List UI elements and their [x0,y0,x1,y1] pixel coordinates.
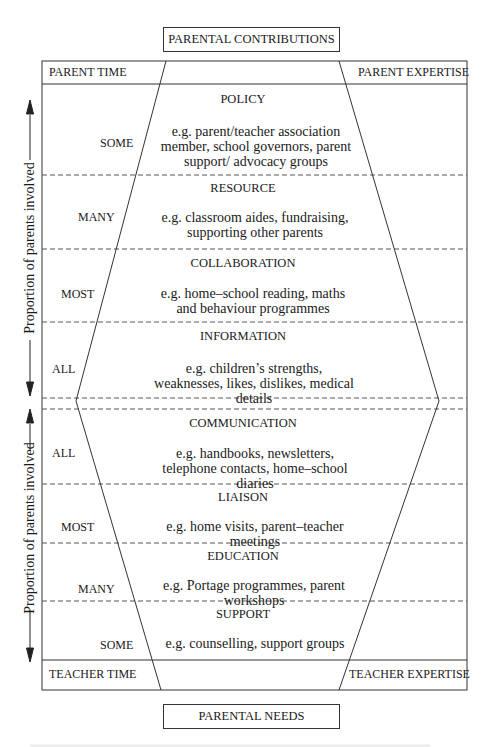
section-example: e.g. counselling, support groups [160,636,350,651]
section-example: e.g. Portage programmes, parent workshop… [134,578,374,608]
level-label: MOST [61,520,94,535]
section-title: POLICY [0,92,486,107]
level-label: SOME [100,136,133,151]
section-example: e.g. home–school reading, maths and beha… [158,286,348,316]
section-title: COMMUNICATION [0,416,486,431]
section-title: RESOURCE [0,181,486,196]
level-label: SOME [100,638,133,653]
section-example: e.g. children’s strengths, weaknesses, l… [151,361,357,406]
teacher-expertise-label: TEACHER EXPERTISE [349,667,470,682]
parent-expertise-label: PARENT EXPERTISE [358,65,469,80]
section-example: e.g. home visits, parent–teacher meeting… [140,519,370,549]
level-label: MANY [78,582,115,597]
parental-needs-label: PARENTAL NEEDS [198,709,304,724]
section-example: e.g. parent/teacher association member, … [146,124,366,169]
figure-caption-fragment [30,742,430,747]
teacher-time-label: TEACHER TIME [49,667,136,682]
level-label: MANY [78,210,115,225]
lower-axis-label: Proportion of parents involved [22,433,38,623]
section-example: e.g. handbooks, newsletters, telephone c… [148,446,362,491]
section-title: LIAISON [0,490,486,505]
level-label: ALL [52,362,75,377]
section-title: SUPPORT [0,607,486,622]
parent-time-label: PARENT TIME [49,65,126,80]
level-label: MOST [61,287,94,302]
parental-contributions-box: PARENTAL CONTRIBUTIONS [163,27,340,52]
section-title: EDUCATION [0,549,486,564]
level-label: ALL [52,446,75,461]
section-example: e.g. classroom aides, fundraising, suppo… [160,210,350,240]
section-title: COLLABORATION [0,256,486,271]
parental-contributions-label: PARENTAL CONTRIBUTIONS [168,32,335,47]
parental-needs-box: PARENTAL NEEDS [163,704,340,729]
section-title: INFORMATION [0,329,486,344]
